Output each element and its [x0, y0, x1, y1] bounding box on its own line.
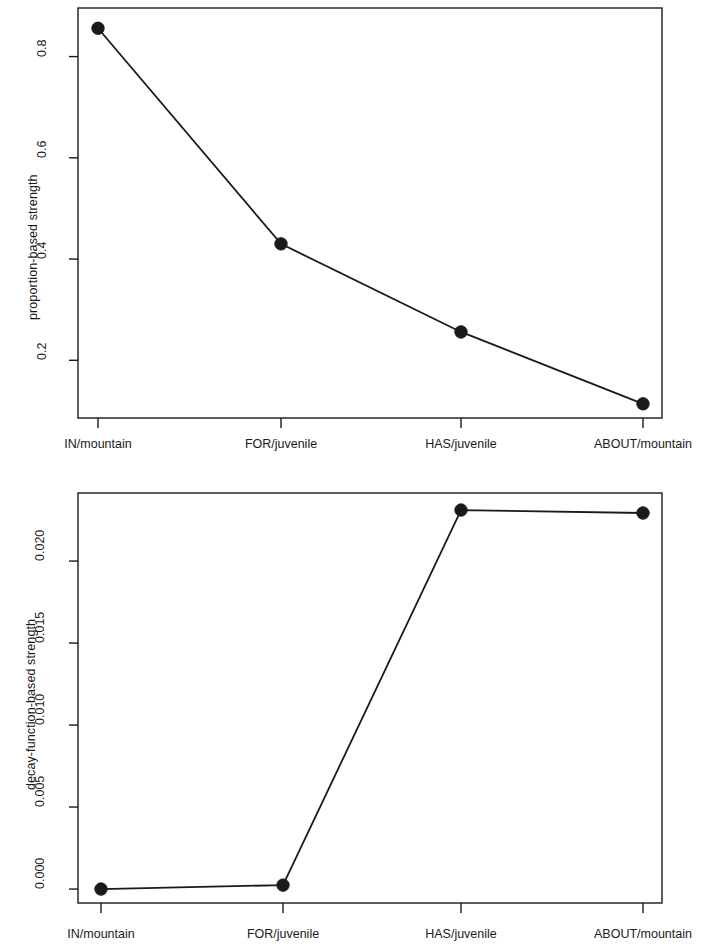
x-axis-tick-label: IN/mountain	[64, 437, 131, 451]
x-axis-tick-label: ABOUT/mountain	[594, 927, 692, 941]
x-axis-tick-label: IN/mountain	[67, 927, 134, 941]
plot-area-top	[0, 0, 705, 472]
x-axis-tick-label: FOR/juvenile	[245, 437, 317, 451]
x-axis-tick-label: HAS/juvenile	[425, 927, 497, 941]
x-axis-tick-label: HAS/juvenile	[425, 437, 497, 451]
figure-two-panel-line-charts: proportion-based strength 0.20.40.60.8 I…	[0, 0, 705, 944]
x-axis-tick-label: FOR/juvenile	[247, 927, 319, 941]
plot-area-bottom	[0, 472, 705, 944]
chart-panel-proportion-based-strength: proportion-based strength 0.20.40.60.8 I…	[0, 0, 705, 472]
x-axis-tick-label: ABOUT/mountain	[594, 437, 692, 451]
chart-panel-decay-function-based-strength: decay-function-based strength 0.0000.005…	[0, 472, 705, 944]
